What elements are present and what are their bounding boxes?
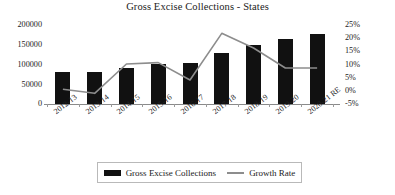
legend-bar-swatch-icon (104, 170, 121, 176)
x-tick (174, 104, 175, 107)
bar-2020-21-re (310, 34, 325, 104)
y2-axis-label-0pct: 0% (345, 86, 356, 95)
chart-title: Gross Excise Collections - States (0, 1, 395, 12)
y2-axis-label-5pct: 5% (345, 73, 356, 82)
x-tick (47, 104, 48, 107)
bar-2019-20 (278, 39, 293, 104)
y-axis-label-50000: 50000 (0, 80, 42, 89)
y2-axis-label-15pct: 15% (345, 46, 360, 55)
legend-label-gross-excise-collections: Gross Excise Collections (126, 168, 217, 178)
legend-item-growth-rate: Growth Rate (227, 168, 295, 178)
y-axis-label-200000: 200000 (0, 20, 42, 29)
y2-axis-label-20pct: 20% (345, 33, 360, 42)
x-tick (269, 104, 270, 107)
x-tick (111, 104, 112, 107)
chart-container: Gross Excise Collections - States 200000… (0, 0, 395, 195)
y-axis-label-100000: 100000 (0, 60, 42, 69)
y2-axis-label-25pct: 25% (345, 20, 360, 29)
legend-label-growth-rate: Growth Rate (249, 168, 295, 178)
x-tick (301, 104, 302, 107)
legend-item-gross-excise-collections: Gross Excise Collections (104, 168, 217, 178)
legend-line-swatch-icon (227, 172, 244, 174)
x-tick (238, 104, 239, 107)
y-axis-label-0: 0 (0, 99, 42, 108)
chart-legend: Gross Excise Collections Growth Rate (97, 162, 302, 183)
y-axis-label-150000: 150000 (0, 40, 42, 49)
y2-axis-label-10pct: 10% (345, 60, 360, 69)
x-tick (206, 104, 207, 107)
x-tick (79, 104, 80, 107)
x-tick (333, 104, 334, 107)
x-tick (142, 104, 143, 107)
y2-axis-label-neg5pct: -5% (345, 99, 359, 108)
